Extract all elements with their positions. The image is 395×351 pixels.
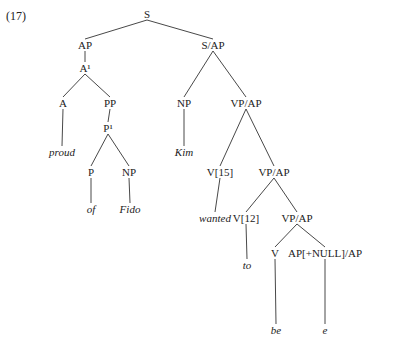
tree-edge bbox=[129, 178, 130, 203]
tree-node: VP/AP bbox=[230, 97, 261, 109]
tree-edge bbox=[91, 134, 108, 166]
tree-node: A bbox=[59, 97, 67, 109]
tree-edge bbox=[246, 224, 247, 259]
tree-node: V[12] bbox=[233, 212, 259, 224]
tree-node: A¹ bbox=[79, 62, 90, 74]
tree-edge bbox=[85, 74, 110, 97]
tree-node: PP bbox=[104, 97, 116, 109]
tree-edge bbox=[63, 74, 85, 97]
tree-node: AP bbox=[78, 39, 92, 51]
tree-edge bbox=[215, 178, 220, 212]
tree-edge bbox=[85, 20, 147, 39]
tree-edge bbox=[147, 20, 213, 39]
tree-node: P¹ bbox=[103, 122, 112, 134]
tree-node: VP/AP bbox=[281, 212, 312, 224]
tree-edge bbox=[297, 224, 325, 247]
leaf-word: of bbox=[87, 203, 96, 215]
tree-node: NP bbox=[122, 166, 136, 178]
tree-node: S/AP bbox=[201, 39, 224, 51]
tree-node: V bbox=[271, 247, 279, 259]
tree-edge bbox=[246, 109, 274, 166]
tree-edge bbox=[220, 109, 246, 166]
tree-edge bbox=[108, 109, 110, 122]
tree-node: S bbox=[144, 8, 150, 20]
leaf-word: be bbox=[271, 324, 281, 336]
leaf-word: wanted bbox=[199, 212, 231, 224]
tree-edge bbox=[274, 178, 297, 212]
tree-edge bbox=[108, 134, 129, 166]
leaf-word: e bbox=[323, 324, 328, 336]
tree-node: AP[+NULL]/AP bbox=[288, 247, 362, 259]
leaf-word: Fido bbox=[120, 203, 141, 215]
tree-edge bbox=[246, 178, 274, 212]
tree-edge bbox=[62, 109, 63, 146]
tree-node: NP bbox=[177, 97, 191, 109]
tree-edge bbox=[275, 224, 297, 247]
tree-edge bbox=[213, 51, 246, 97]
syntax-tree bbox=[0, 0, 395, 351]
leaf-word: to bbox=[243, 259, 252, 271]
tree-edge bbox=[275, 259, 276, 324]
tree-node: P bbox=[88, 166, 94, 178]
leaf-word: Kim bbox=[175, 146, 193, 158]
leaf-word: proud bbox=[49, 146, 75, 158]
tree-node: VP/AP bbox=[258, 166, 289, 178]
tree-edge bbox=[184, 51, 213, 97]
tree-node: V[15] bbox=[207, 166, 233, 178]
